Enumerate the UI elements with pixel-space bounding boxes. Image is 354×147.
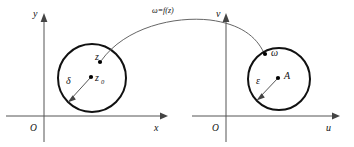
- w-plane-point-omega: [263, 52, 267, 56]
- w-plane-origin-label: O: [212, 123, 219, 133]
- complex-mapping-figure: ω=f(z) y x O δ z z 0 v u O ε ω A: [0, 0, 354, 147]
- z-plane-radius-line: [71, 77, 92, 100]
- w-plane-center-label: A: [283, 70, 291, 81]
- z-plane-radius-label: δ: [66, 75, 71, 86]
- w-plane-radius-arrowhead: [257, 93, 265, 100]
- z-plane-center-label-group: z 0: [94, 72, 105, 85]
- w-plane-v-axis-arrowhead: [223, 13, 230, 22]
- diagram-canvas: ω=f(z) y x O δ z z 0 v u O ε ω A: [0, 0, 354, 147]
- w-plane-center-point: [276, 76, 280, 80]
- mapping-function-label: ω=f(z): [152, 6, 174, 15]
- z-plane-origin-label: O: [30, 123, 37, 133]
- z-plane-point-z-label: z: [94, 51, 99, 62]
- z-plane-y-axis-label: y: [32, 8, 38, 19]
- w-plane-point-omega-label: ω: [271, 47, 278, 58]
- z-plane-center-point: [89, 75, 93, 79]
- z-plane-radius-arrowhead: [68, 95, 76, 102]
- mapping-curve-group: [101, 19, 264, 61]
- z-plane-y-axis-arrowhead: [41, 13, 48, 22]
- z-plane-x-axis-label: x: [153, 122, 159, 133]
- z-plane-x-axis-arrowhead: [160, 113, 168, 120]
- w-plane-v-axis-label: v: [216, 8, 221, 19]
- mapping-curve: [101, 19, 264, 61]
- w-plane-u-axis-arrowhead: [332, 113, 340, 120]
- w-plane-radius-label: ε: [256, 75, 260, 86]
- w-plane-u-axis-label: u: [326, 122, 331, 133]
- z-plane-center-label-subscript: 0: [101, 78, 105, 85]
- z-plane-center-label-base: z: [94, 72, 99, 83]
